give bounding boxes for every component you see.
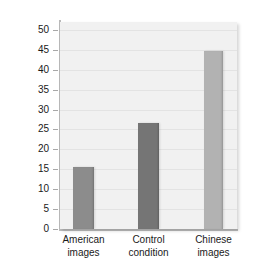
plot-inner [60,22,237,229]
y-tick-mark [53,50,58,51]
y-tick-label: 10 [38,183,49,194]
y-tick-mark [53,129,58,130]
y-tick-label: 30 [38,104,49,115]
y-tick: 45 [0,50,58,51]
x-tick-label: Americanimages [52,234,116,259]
y-tick: 20 [0,149,58,150]
y-tick-label: 0 [43,223,49,234]
x-axis-line [59,229,238,231]
y-tick-label: 15 [38,163,49,174]
y-tick: 5 [0,209,58,210]
x-tick-label: Chineseimages [182,234,246,259]
bar [73,167,94,229]
y-tick-label: 20 [38,143,49,154]
y-tick: 10 [0,189,58,190]
y-tick: 30 [0,110,58,111]
x-tick-label: Controlcondition [117,234,181,259]
y-tick: 50 [0,30,58,31]
y-tick-mark [53,189,58,190]
y-tick: 35 [0,90,58,91]
x-tick-label-line: Control [117,234,181,247]
plot-area [60,22,237,229]
y-tick-label: 50 [38,24,49,35]
y-tick-label: 5 [43,203,49,214]
y-tick-mark [53,229,58,230]
bar [138,123,159,229]
gridline [60,30,237,31]
y-tick-mark [53,90,58,91]
y-tick: 25 [0,129,58,130]
x-tick-label-line: American [52,234,116,247]
bar [204,51,223,229]
y-tick-mark [53,110,58,111]
y-tick-mark [53,30,58,31]
x-tick-label-line: condition [117,247,181,260]
y-tick: 40 [0,70,58,71]
x-tick-label-line: Chinese [182,234,246,247]
bar-chart-figure: Percentage of situational attributions 0… [0,0,253,272]
y-tick-mark [53,149,58,150]
y-tick-label: 40 [38,64,49,75]
x-tick-label-line: images [52,247,116,260]
y-tick-mark [53,169,58,170]
x-tick-label-line: images [182,247,246,260]
y-tick-mark [53,209,58,210]
y-tick-label: 25 [38,123,49,134]
y-tick: 15 [0,169,58,170]
y-tick: 0 [0,229,58,230]
y-tick-label: 35 [38,84,49,95]
y-tick-label: 45 [38,44,49,55]
y-tick-mark [53,70,58,71]
